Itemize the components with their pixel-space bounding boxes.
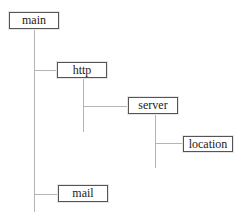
node-server-label: server: [138, 98, 167, 113]
node-http-label: http: [73, 63, 92, 78]
server-to-location-connector: [155, 143, 183, 144]
node-mail: mail: [58, 185, 108, 202]
http-trunk-line: [83, 78, 84, 132]
main-to-mail-connector: [34, 194, 58, 195]
main-to-http-connector: [34, 70, 57, 71]
node-location: location: [183, 136, 233, 152]
node-server: server: [128, 97, 178, 114]
server-trunk-line: [155, 114, 156, 168]
node-main-label: main: [22, 13, 46, 28]
node-location-label: location: [189, 137, 228, 152]
main-trunk-line: [34, 29, 35, 212]
node-mail-label: mail: [72, 186, 93, 201]
node-http: http: [57, 62, 107, 78]
node-main: main: [9, 12, 59, 29]
http-to-server-connector: [83, 106, 128, 107]
